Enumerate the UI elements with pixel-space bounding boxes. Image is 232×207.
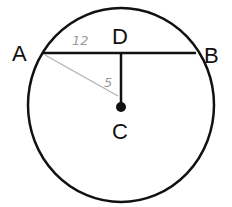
annotation-dc: 5 — [104, 75, 112, 90]
center-point-c — [116, 102, 126, 112]
label-b: B — [204, 43, 219, 68]
circle-diagram: A B D C 12 5 — [0, 0, 232, 207]
label-c: C — [112, 119, 128, 144]
annotation-ad: 12 — [72, 33, 89, 48]
label-a: A — [12, 41, 27, 66]
label-d: D — [112, 24, 128, 49]
